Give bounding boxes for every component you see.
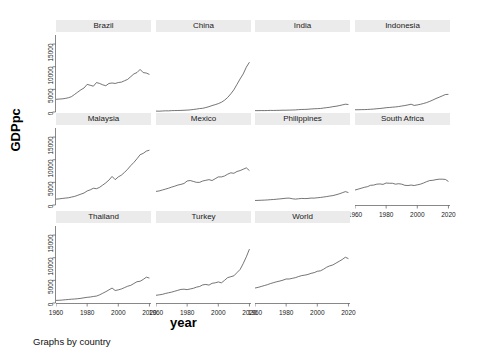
x-tick-label: 2000 <box>207 309 229 316</box>
panel-title-china: China <box>156 20 251 32</box>
plot-area-world <box>255 226 350 303</box>
panel-title-indonesia: Indonesia <box>355 20 450 32</box>
x-axis-line <box>355 205 452 210</box>
panel-title-india: India <box>255 20 350 32</box>
x-tick-label: 1980 <box>375 211 397 218</box>
plot-area-indonesia <box>355 35 450 112</box>
series-line <box>255 104 348 110</box>
plot-area-india <box>255 35 350 112</box>
panel-title-turkey: Turkey <box>156 211 251 223</box>
plot-area-malaysia <box>56 128 151 205</box>
chart-caption: Graphs by country <box>33 336 111 347</box>
series-line <box>255 192 348 201</box>
y-tick-label: 15000 <box>47 44 54 76</box>
x-axis-title: year <box>170 315 197 330</box>
y-axis-title: GDPpc <box>8 126 23 152</box>
panel-title-south-africa: South Africa <box>355 113 450 125</box>
x-tick-label: 1980 <box>76 309 98 316</box>
x-tick-label: 2000 <box>406 211 428 218</box>
panel-title-world: World <box>255 211 350 223</box>
series-line <box>255 257 348 288</box>
panel-title-mexico: Mexico <box>156 113 251 125</box>
series-line <box>56 69 149 99</box>
plot-area-mexico <box>156 128 251 205</box>
y-tick-label: 15000 <box>47 137 54 169</box>
x-axis-line <box>156 303 253 308</box>
series-line <box>355 94 448 109</box>
plot-area-turkey <box>156 226 251 303</box>
x-tick-label: 2020 <box>337 309 359 316</box>
panel-title-thailand: Thailand <box>56 211 151 223</box>
x-tick-label: 1960 <box>244 309 266 316</box>
x-tick-label: 2020 <box>437 211 459 218</box>
x-tick-label: 1960 <box>145 309 167 316</box>
plot-area-south-africa <box>355 128 450 205</box>
plot-area-china <box>156 35 251 112</box>
y-tick-label: 15000 <box>47 235 54 267</box>
x-tick-label: 1960 <box>45 309 67 316</box>
plot-area-philippines <box>255 128 350 205</box>
x-tick-label: 2000 <box>107 309 129 316</box>
series-line <box>156 249 249 295</box>
plot-area-brazil <box>56 35 151 112</box>
x-tick-label: 1980 <box>176 309 198 316</box>
series-line <box>156 62 249 111</box>
series-line <box>56 277 149 300</box>
series-line <box>355 179 448 190</box>
chart-figure: GDPpc year Graphs by country Brazil05000… <box>0 0 484 362</box>
panel-title-philippines: Philippines <box>255 113 350 125</box>
series-line <box>56 150 149 199</box>
x-tick-label: 1980 <box>275 309 297 316</box>
panel-title-malaysia: Malaysia <box>56 113 151 125</box>
x-tick-label: 2000 <box>306 309 328 316</box>
x-axis-line <box>56 303 153 308</box>
panel-title-brazil: Brazil <box>56 20 151 32</box>
series-line <box>156 168 249 192</box>
plot-area-thailand <box>56 226 151 303</box>
x-axis-line <box>255 303 352 308</box>
